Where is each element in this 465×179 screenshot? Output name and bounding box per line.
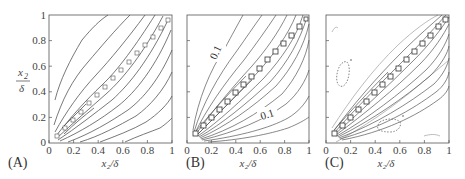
svg-text:1: 1 (446, 144, 452, 156)
svg-text:0.8: 0.8 (418, 144, 432, 156)
diagonal-markers (332, 17, 448, 136)
svg-text:0.4: 0.4 (368, 144, 382, 156)
svg-text:0.2: 0.2 (344, 144, 358, 156)
panel-c-plot: 0 0.2 0.4 0.6 0.8 1 x₂/δ (C) (0, 0, 465, 179)
panel-c: 0 0.2 0.4 0.6 0.8 1 x₂/δ (C) (0, 0, 465, 179)
svg-text:0.6: 0.6 (393, 144, 407, 156)
panel-label-c: (C) (325, 155, 344, 171)
negative-contours (337, 62, 401, 132)
x-axis-label: x₂/δ (377, 157, 396, 169)
